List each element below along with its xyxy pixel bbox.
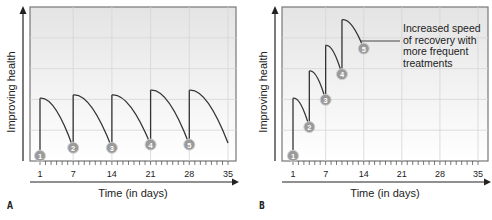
svg-text:3: 3 — [110, 144, 114, 153]
y-axis-label: Improving health — [257, 51, 269, 132]
chart-a: 1714212835Time (in days)Improving health… — [0, 0, 246, 220]
x-tick-label: 7 — [71, 169, 76, 179]
svg-text:1: 1 — [38, 152, 42, 161]
svg-text:5: 5 — [187, 141, 191, 150]
annotation-text: Increased speed — [403, 22, 481, 34]
x-tick-label: 35 — [223, 169, 233, 179]
x-tick-label: 14 — [359, 169, 369, 179]
svg-text:1: 1 — [291, 152, 295, 161]
annotation-text: treatments — [403, 57, 453, 69]
x-tick-label: 1 — [290, 169, 295, 179]
x-tick-label: 28 — [435, 169, 445, 179]
x-tick-label: 14 — [107, 169, 117, 179]
svg-text:5: 5 — [362, 45, 366, 54]
panel-a: 1714212835Time (in days)Improving health… — [0, 0, 246, 220]
panel-label-b: B — [259, 199, 265, 212]
plot-area — [30, 7, 236, 161]
x-tick-label: 21 — [146, 169, 156, 179]
panel-label-a: A — [7, 199, 13, 212]
x-tick-label: 35 — [473, 169, 483, 179]
annotation-text: more frequent — [403, 45, 468, 57]
x-tick-label: 21 — [397, 169, 407, 179]
x-tick-label: 7 — [323, 169, 328, 179]
y-axis-label: Improving health — [5, 51, 17, 132]
annotation-text: of recovery with — [403, 34, 477, 46]
svg-text:2: 2 — [71, 144, 75, 153]
chart-b: 1714212835Time (in days)Improving health… — [246, 0, 492, 220]
x-tick-label: 1 — [37, 169, 42, 179]
x-tick-label: 28 — [184, 169, 194, 179]
panel-b: 1714212835Time (in days)Improving health… — [246, 0, 492, 220]
svg-text:2: 2 — [307, 123, 311, 132]
x-axis-label: Time (in days) — [350, 187, 419, 199]
x-axis-label: Time (in days) — [98, 187, 167, 199]
svg-text:3: 3 — [324, 96, 328, 105]
